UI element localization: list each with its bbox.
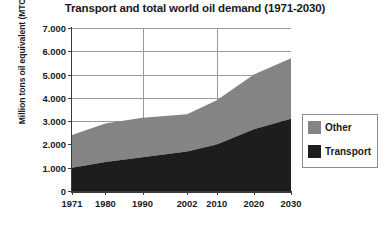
plot-area: 01.0002.0003.0004.0005.0006.0007.000 197…: [72, 28, 291, 191]
stacked-area-series: [72, 28, 291, 191]
x-tick-label: 2010: [206, 198, 227, 209]
y-tick-label: 1.000: [43, 162, 66, 173]
chart-title: Transport and total world oil demand (19…: [0, 2, 390, 14]
legend-swatch-transport: [308, 145, 321, 158]
x-tick-label: 2020: [243, 198, 264, 209]
x-tick-label: 2030: [281, 198, 302, 209]
x-tick-label: 1971: [62, 198, 83, 209]
y-tick-label: 5.000: [43, 69, 66, 80]
x-tick-label: 1980: [95, 198, 116, 209]
x-tick-label: 2002: [177, 198, 198, 209]
x-tick-label: 1990: [132, 198, 153, 209]
y-tick-label: 2.000: [43, 139, 66, 150]
y-tick-label: 4.000: [43, 92, 66, 103]
x-axis-line: [71, 191, 292, 193]
legend-item-other: Other: [308, 121, 352, 134]
legend-label-transport: Transport: [325, 146, 371, 157]
legend-swatch-other: [308, 121, 321, 134]
y-tick-label: 0: [61, 186, 66, 197]
legend-label-other: Other: [325, 122, 352, 133]
y-tick-label: 3.000: [43, 116, 66, 127]
y-tick-label: 7.000: [43, 23, 66, 34]
y-axis-title: Million tons oil equivalent (MTOE): [17, 0, 27, 141]
legend-item-transport: Transport: [308, 145, 371, 158]
y-axis-line: [71, 27, 72, 192]
oil-demand-area-chart: Transport and total world oil demand (19…: [0, 0, 390, 225]
chart-legend: Other Transport: [302, 114, 378, 168]
y-tick-label: 6.000: [43, 46, 66, 57]
